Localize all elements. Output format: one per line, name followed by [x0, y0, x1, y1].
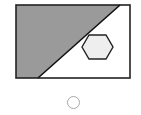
answer-radio-button[interactable] — [67, 96, 80, 109]
geometry-figure — [0, 0, 141, 90]
hexagon-shape — [82, 35, 113, 59]
